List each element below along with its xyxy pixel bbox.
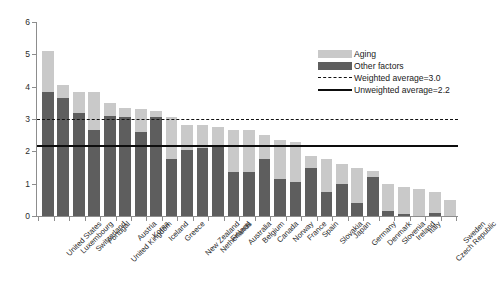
bar-segment-other-factors <box>305 168 317 217</box>
bar-segment-aging <box>119 108 131 118</box>
bar-segment-other-factors <box>73 113 85 216</box>
x-axis-tick <box>193 217 194 221</box>
y-axis-tick <box>32 22 36 23</box>
bar-segment-aging <box>305 156 317 167</box>
legend-line-glyph <box>318 89 352 91</box>
y-axis-tick <box>32 87 36 88</box>
y-axis-tick-label: 5 <box>10 50 30 59</box>
legend-item: Aging <box>318 48 450 60</box>
y-axis-tick-label: 3 <box>10 115 30 124</box>
bar-segment-other-factors <box>181 150 193 216</box>
bar-segment-aging <box>135 109 147 132</box>
x-axis-tick <box>425 217 426 221</box>
bar-segment-other-factors <box>42 92 54 216</box>
y-axis-tick-label: 0 <box>10 212 30 221</box>
x-axis-tick <box>379 217 380 221</box>
bar-segment-aging <box>382 184 394 211</box>
x-axis-tick <box>146 217 147 221</box>
bar-segment-aging <box>150 111 162 117</box>
bar-segment-other-factors <box>228 172 240 216</box>
bar-segment-other-factors <box>212 146 224 216</box>
bar-segment-other-factors <box>243 172 255 216</box>
x-axis-tick <box>116 217 117 221</box>
legend-item-label: Weighted average=3.0 <box>354 74 441 83</box>
x-axis-tick <box>131 217 132 221</box>
legend-line-weighted-average <box>318 74 352 82</box>
bar-segment-aging <box>243 130 255 172</box>
legend-swatch-aging <box>318 50 352 58</box>
legend-item: Other factors <box>318 60 450 72</box>
bar-segment-other-factors <box>119 117 131 216</box>
bar-segment-other-factors <box>367 177 379 216</box>
bar-segment-aging <box>57 85 69 98</box>
x-axis-tick <box>301 217 302 221</box>
bar-segment-other-factors <box>321 192 333 216</box>
y-axis-tick <box>32 216 36 217</box>
bar-segment-aging <box>166 117 178 159</box>
x-axis-tick <box>208 217 209 221</box>
legend-swatch-other-factors <box>318 62 352 70</box>
x-axis-tick <box>317 217 318 221</box>
bar-segment-other-factors <box>150 117 162 216</box>
legend-item-label: Other factors <box>354 62 404 71</box>
y-axis-tick <box>32 151 36 152</box>
bar-segment-aging <box>259 135 271 159</box>
x-axis-tick <box>85 217 86 221</box>
y-axis-tick-label: 6 <box>10 18 30 27</box>
x-axis-tick <box>410 217 411 221</box>
bar-segment-other-factors <box>274 179 286 216</box>
bar-segment-other-factors <box>259 159 271 216</box>
bar-segment-aging <box>367 171 379 177</box>
legend-item-label: Unweighted average=2.2 <box>354 86 450 95</box>
bar-segment-other-factors <box>166 159 178 216</box>
x-axis-tick <box>224 217 225 221</box>
bar-segment-aging <box>228 130 240 172</box>
bar-segment-aging <box>444 200 456 216</box>
legend-item-label: Aging <box>354 50 376 59</box>
bar-segment-other-factors <box>429 213 441 216</box>
bar-segment-aging <box>88 92 100 131</box>
y-axis-tick-label: 4 <box>10 83 30 92</box>
bar-segment-other-factors <box>351 203 363 216</box>
y-axis-tick-label: 2 <box>10 147 30 156</box>
x-axis-tick <box>348 217 349 221</box>
bar-segment-aging <box>336 164 348 183</box>
x-axis-tick <box>441 217 442 221</box>
bar-segment-aging <box>413 189 425 216</box>
x-axis-tick <box>177 217 178 221</box>
x-axis-tick <box>270 217 271 221</box>
bar-segment-aging <box>290 142 302 182</box>
y-axis-tick <box>32 184 36 185</box>
bar-segment-other-factors <box>57 98 69 216</box>
bar-segment-aging <box>429 192 441 213</box>
bar-segment-other-factors <box>104 116 116 216</box>
x-axis-tick <box>54 217 55 221</box>
x-axis-tick <box>69 217 70 221</box>
x-axis-tick <box>286 217 287 221</box>
legend-line-glyph <box>318 77 352 78</box>
bar-segment-other-factors <box>197 148 209 216</box>
bar-segment-aging <box>104 103 116 116</box>
x-axis-tick <box>38 217 39 221</box>
x-axis-tick <box>255 217 256 221</box>
x-axis-tick <box>239 217 240 221</box>
y-axis-tick <box>32 54 36 55</box>
bar-segment-other-factors <box>290 182 302 216</box>
x-axis-tick <box>394 217 395 221</box>
x-axis-tick <box>456 217 457 221</box>
y-axis-tick-label: 1 <box>10 180 30 189</box>
bar-segment-other-factors <box>336 184 348 216</box>
unweighted-average-line <box>37 145 458 147</box>
y-axis-tick <box>32 119 36 120</box>
bar-segment-aging <box>73 92 85 113</box>
bar-segment-aging <box>351 168 363 204</box>
bar-segment-aging <box>398 187 410 214</box>
legend-item: Unweighted average=2.2 <box>318 84 450 96</box>
chart-legend: AgingOther factorsWeighted average=3.0Un… <box>318 48 450 96</box>
bar-segment-other-factors <box>382 211 394 216</box>
bar-segment-aging <box>212 127 224 146</box>
bar-segment-aging <box>42 51 54 91</box>
legend-line-unweighted-average <box>318 86 352 94</box>
bar-segment-aging <box>321 159 333 191</box>
